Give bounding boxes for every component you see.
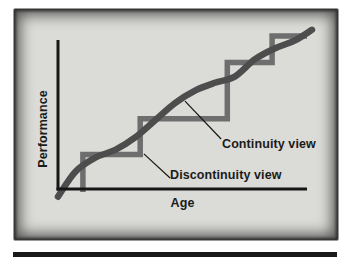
discontinuity-view-label: Discontinuity view — [170, 168, 282, 182]
x-axis-label: Age — [58, 196, 307, 210]
bottom-rule — [13, 252, 337, 257]
chart-canvas — [0, 0, 348, 264]
continuity-view-label: Continuity view — [222, 137, 316, 151]
discontinuity-pointer-line — [144, 154, 170, 178]
figure-page: Performance Age Continuity view Disconti… — [0, 0, 348, 264]
y-axis-label: Performance — [36, 90, 50, 168]
